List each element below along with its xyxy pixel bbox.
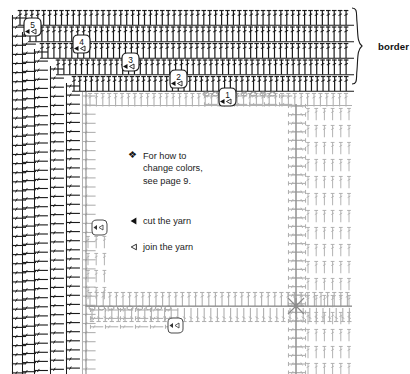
crochet-chart-page: 54321 border ❖ For how to change colors,…: [0, 0, 410, 374]
color-change-note: ❖ For how to change colors, see page 9.: [128, 150, 238, 187]
motif-join-marker-2: [168, 318, 183, 333]
row-marker-3: 3: [122, 53, 139, 71]
legend-label-cut: cut the yarn: [143, 216, 191, 226]
legend-label-join: join the yarn: [143, 242, 193, 252]
row-marker-5: 5: [24, 18, 41, 36]
cut-yarn-icon: [129, 216, 139, 226]
border-label: border: [378, 41, 409, 52]
note-line-3: see page 9.: [143, 176, 191, 186]
border-brace: [352, 8, 362, 84]
legend-block: ❖ For how to change colors, see page 9. …: [128, 150, 238, 253]
legend-item-cut-the-yarn: cut the yarn: [128, 215, 238, 227]
join-yarn-icon: [129, 242, 139, 252]
row-marker-number: 5: [30, 20, 35, 30]
border-round-2: [56, 60, 354, 75]
border-round-5: [18, 10, 354, 25]
row-marker-number: 2: [176, 72, 181, 82]
note-line-1: For how to: [143, 151, 186, 161]
row-marker-number: 3: [128, 55, 133, 65]
row-marker-number: 1: [225, 90, 230, 100]
row-marker-2: 2: [170, 70, 187, 88]
flower-bullet-icon: ❖: [128, 149, 137, 161]
row-marker-number: 4: [79, 37, 84, 47]
legend-item-join-the-yarn: join the yarn: [128, 241, 238, 253]
border-round-1: [72, 76, 354, 91]
note-line-2: change colors,: [143, 163, 203, 173]
row-marker-1: 1: [219, 88, 236, 106]
stitch-intersection-knot: [288, 298, 304, 314]
motif-join-marker-1: [92, 220, 107, 235]
row-marker-4: 4: [73, 35, 90, 53]
